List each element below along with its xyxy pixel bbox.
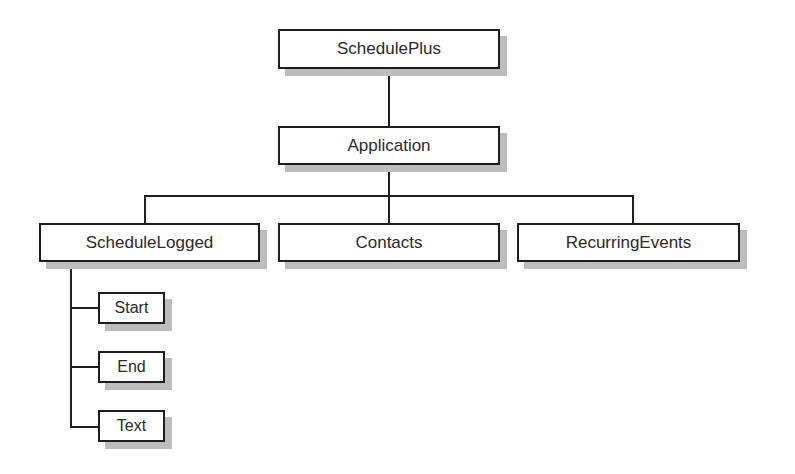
node-text: Text [98, 410, 165, 442]
connector-to-text [70, 426, 99, 428]
connector-to-end [70, 366, 99, 368]
connector-to-schedulelogged [144, 195, 146, 224]
node-application: Application [278, 126, 500, 165]
connector-to-recurringevents [632, 195, 634, 224]
node-schedulelogged: ScheduleLogged [39, 223, 260, 262]
node-recurringevents: RecurringEvents [517, 223, 740, 262]
connector-to-start [70, 307, 99, 309]
connector-application-down [388, 164, 390, 197]
connector-schedulelogged-vertical [70, 261, 72, 428]
node-start: Start [98, 292, 165, 324]
connector-root-application [388, 68, 390, 127]
node-scheduleplus: SchedulePlus [278, 29, 500, 69]
node-end: End [98, 351, 165, 383]
connector-to-contacts [388, 195, 390, 224]
node-contacts: Contacts [278, 223, 500, 262]
